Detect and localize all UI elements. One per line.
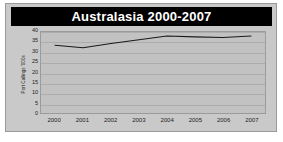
x-tick-label: 2004 <box>160 117 173 123</box>
y-tick-label: 30 <box>16 49 38 55</box>
y-tick-label: 35 <box>16 39 38 45</box>
y-tick-label: 20 <box>16 70 38 76</box>
x-tick-label: 2001 <box>76 117 89 123</box>
chart-body: Port Callings '000s 0510152025303540 200… <box>6 26 276 131</box>
data-series-line <box>41 32 265 113</box>
y-tick-label: 15 <box>16 80 38 86</box>
x-tick-label: 2003 <box>132 117 145 123</box>
y-tick-label: 0 <box>16 111 38 117</box>
chart-title: Australasia 2000-2007 <box>71 10 211 23</box>
x-tick-label: 2002 <box>104 117 117 123</box>
plot-area <box>40 31 266 114</box>
x-tick-label: 2006 <box>217 117 230 123</box>
x-tick-label: 2000 <box>47 117 60 123</box>
chart-title-banner: Australasia 2000-2007 <box>11 7 272 26</box>
y-tick-label: 40 <box>16 28 38 34</box>
y-axis-tick-labels: 0510152025303540 <box>12 31 38 114</box>
y-tick-label: 5 <box>16 101 38 107</box>
x-tick-label: 2005 <box>189 117 202 123</box>
y-tick-label: 25 <box>16 59 38 65</box>
chart-figure: Australasia 2000-2007 Port Callings '000… <box>0 0 283 142</box>
x-axis-tick-labels: 20002001200220032004200520062007 <box>40 117 266 129</box>
x-tick-label: 2007 <box>245 117 258 123</box>
y-tick-label: 10 <box>16 91 38 97</box>
